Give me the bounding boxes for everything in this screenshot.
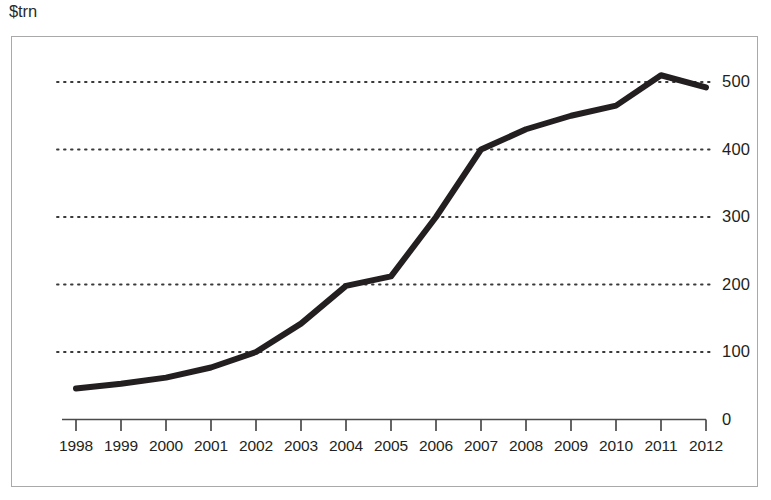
y-tick-label-0: 0	[722, 410, 731, 429]
chart-figure: $trn	[0, 0, 771, 500]
y-tick-label-400: 400	[722, 140, 750, 159]
gridlines-group	[57, 82, 712, 352]
x-tick-label-2012: 2012	[676, 437, 736, 455]
data-series-line	[76, 75, 706, 388]
x-axis-group	[62, 420, 706, 432]
line-chart-canvas	[0, 0, 771, 500]
y-tick-label-200: 200	[722, 275, 750, 294]
y-tick-label-100: 100	[722, 342, 750, 361]
y-tick-label-500: 500	[722, 72, 750, 91]
y-tick-label-300: 300	[722, 207, 750, 226]
